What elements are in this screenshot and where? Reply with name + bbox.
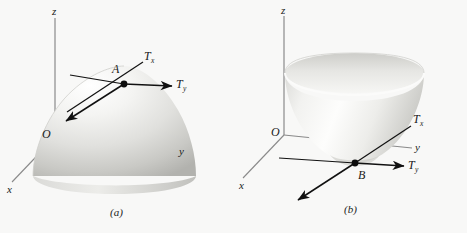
panel-b-scene <box>234 0 467 233</box>
panel-b-tx-subscript: x <box>420 119 423 128</box>
panel-a-ty-subscript: y <box>183 84 186 93</box>
panel-a-x-axis-label: x <box>7 184 12 195</box>
panel-b-paraboloid-surface <box>285 53 424 166</box>
panel-a-point-label: A <box>112 63 119 75</box>
panel-b-x-axis-label: x <box>239 180 244 191</box>
panel-a-tx-base: T <box>144 49 151 63</box>
panel-a-ty-base: T <box>176 77 183 91</box>
panel-b-ty-subscript: y <box>415 165 418 174</box>
panel-a-y-axis-label: y <box>179 146 184 157</box>
panel-b-caption: (b) <box>234 203 467 215</box>
panel-b-point-marker <box>352 160 359 167</box>
panel-a-paraboloid-surface <box>33 66 196 194</box>
panel-a-point-marker <box>121 81 128 88</box>
panel-b-tx-base: T <box>413 112 420 126</box>
panel-a-ty-vector-label: Ty <box>176 78 186 90</box>
panel-a-tx-vector-label: Tx <box>144 50 154 62</box>
panel-a-caption: (a) <box>0 206 233 218</box>
panel-b-y-axis-label: y <box>415 142 420 153</box>
panel-a-tx-subscript: x <box>151 56 154 65</box>
panel-a-origin-label: O <box>42 128 51 140</box>
panel-b: z y x O B Tx Ty (b) <box>234 0 467 233</box>
panel-b-z-axis-label: z <box>281 5 285 16</box>
panel-b-origin-label: O <box>271 126 280 138</box>
figure-container: z y x O A Tx Ty (a) <box>0 0 467 233</box>
panel-b-tx-vector-label: Tx <box>413 113 423 125</box>
panel-a: z y x O A Tx Ty (a) <box>0 0 233 233</box>
panel-a-z-axis-label: z <box>52 6 56 17</box>
panel-b-ty-base: T <box>408 158 415 172</box>
panel-b-ty-vector-label: Ty <box>408 159 418 171</box>
panel-a-scene <box>0 0 233 233</box>
panel-b-point-label: B <box>358 169 365 181</box>
